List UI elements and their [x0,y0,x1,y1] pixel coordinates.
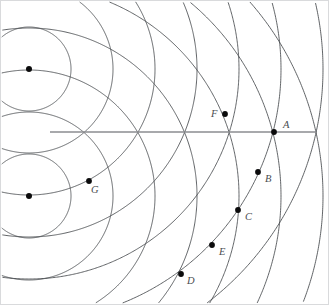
point-b-label: B [265,174,271,185]
upper-wavefront-2 [2,2,113,153]
source-points-group [26,66,32,199]
point-g-label: G [91,185,99,196]
lower-wavefront-1 [2,154,71,238]
upper-wavefront-3 [2,2,155,195]
point-f-dot [222,111,228,117]
point-a-dot [271,129,277,135]
figure-border [1,1,329,305]
lower-wavefront-6 [191,3,281,303]
lower-source-dot [26,193,32,199]
upper-wavefront-1 [2,27,71,111]
lower-wavefront-3 [2,70,155,303]
lower-wavefront-7 [250,2,323,301]
upper-source-wavefront-group [2,2,323,303]
wave-interference-figure: ABCDEFG [0,0,329,305]
upper-wavefront-6 [123,3,281,302]
point-e-dot [209,242,215,248]
point-f-label: F [211,109,217,120]
point-c-label: C [245,212,252,223]
point-d-dot [178,271,184,277]
lower-source-wavefront-group [2,2,323,303]
point-d-label: D [187,276,195,287]
point-b-dot [255,169,261,175]
upper-wavefront-5 [3,3,239,279]
lower-wavefront-2 [2,112,113,280]
upper-wavefront-7 [207,3,323,302]
wave-diagram-canvas [0,0,329,305]
upper-source-dot [26,66,32,72]
point-e-label: E [219,247,225,258]
point-c-dot [235,207,241,213]
point-a-label: A [283,120,289,131]
